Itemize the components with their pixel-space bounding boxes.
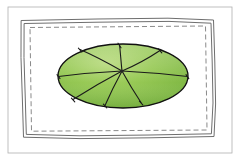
figure-canvas: Hand-drawn green elliptical leaf with ra… [0, 0, 240, 161]
leaf-vein-hub [120, 69, 123, 72]
leaf-sketch-svg [0, 0, 240, 161]
green-leaf-group [57, 43, 189, 108]
